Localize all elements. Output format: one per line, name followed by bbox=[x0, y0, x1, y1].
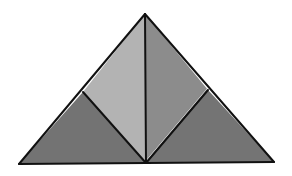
vertical-median bbox=[145, 14, 146, 163]
triangle-diagram-svg bbox=[0, 0, 292, 176]
triangle-diagram bbox=[0, 0, 292, 176]
